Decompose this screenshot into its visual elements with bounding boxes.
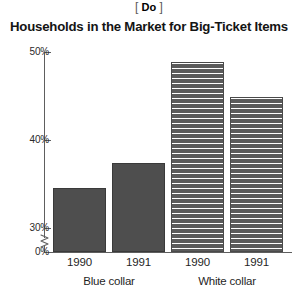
y-tick-label-30: 30% <box>9 223 49 233</box>
axis-break-icon <box>39 234 51 248</box>
x-label-white-collar-1991: 1991 <box>230 256 283 269</box>
y-tick-label-50: 50% <box>9 47 49 57</box>
bar-chart-plot-area: 50% 40% 30% 0% 1990 1991 1990 1991 Blue … <box>0 0 298 301</box>
group-label-white-collar: White collar <box>171 275 283 288</box>
x-label-blue-collar-1990: 1990 <box>53 256 106 269</box>
bar-white-collar-1990[interactable] <box>171 62 224 252</box>
bar-blue-collar-1991[interactable] <box>112 163 165 252</box>
y-tick-label-0: 0% <box>9 247 49 257</box>
x-label-white-collar-1990: 1990 <box>171 256 224 269</box>
bar-blue-collar-1990[interactable] <box>53 188 106 252</box>
y-axis-line <box>44 52 45 238</box>
group-label-blue-collar: Blue collar <box>53 275 165 288</box>
x-axis-line <box>44 252 292 253</box>
x-label-blue-collar-1991: 1991 <box>112 256 165 269</box>
bar-white-collar-1991[interactable] <box>230 97 283 252</box>
y-tick-label-40: 40% <box>9 135 49 145</box>
